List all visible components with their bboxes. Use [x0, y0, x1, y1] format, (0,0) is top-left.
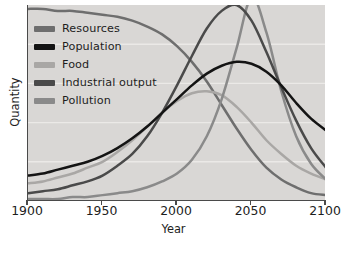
- chart-figure: Resources Population Food Industrial out…: [0, 0, 347, 256]
- y-axis-title: Quantity: [8, 59, 22, 145]
- x-tick-label: 1900: [11, 203, 43, 218]
- legend-label-food: Food: [62, 57, 89, 72]
- legend-swatch-population: [34, 44, 55, 50]
- legend-item-industrial-output: Industrial output: [34, 75, 157, 90]
- legend-item-resources: Resources: [34, 21, 157, 36]
- legend-item-population: Population: [34, 39, 157, 54]
- legend-item-pollution: Pollution: [34, 93, 157, 108]
- legend-swatch-resources: [34, 26, 55, 32]
- legend-item-food: Food: [34, 57, 157, 72]
- x-tick-label: 2100: [309, 203, 341, 218]
- legend-label-industrial-output: Industrial output: [62, 75, 157, 90]
- x-axis-title: Year: [0, 222, 347, 236]
- x-tick-label: 2050: [235, 203, 267, 218]
- legend-label-population: Population: [62, 39, 122, 54]
- legend-label-resources: Resources: [62, 21, 120, 36]
- legend-label-pollution: Pollution: [62, 93, 111, 108]
- x-tick-label: 1950: [86, 203, 118, 218]
- legend-swatch-industrial-output: [34, 80, 55, 86]
- x-tick-label: 2000: [160, 203, 192, 218]
- chart-legend: Resources Population Food Industrial out…: [34, 21, 157, 108]
- legend-swatch-pollution: [34, 98, 55, 104]
- legend-swatch-food: [34, 62, 55, 68]
